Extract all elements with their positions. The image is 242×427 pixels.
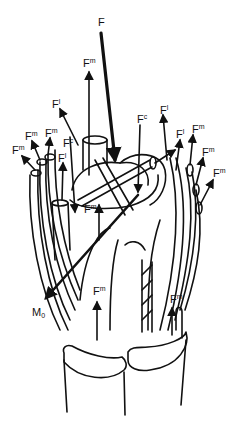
force-label-f-total: F	[98, 17, 105, 28]
label-subscript: 0	[41, 312, 45, 319]
label-superscript: l	[59, 98, 61, 105]
force-label-fl-left-mid: Fl	[58, 152, 66, 164]
force-label-fm-bottom-left: Fm	[93, 285, 106, 297]
label-base: F	[176, 128, 183, 140]
label-superscript: c	[144, 113, 148, 120]
label-superscript: m	[100, 285, 106, 292]
label-superscript: m	[90, 57, 96, 64]
label-base: F	[93, 285, 100, 297]
label-base: F	[84, 203, 91, 215]
force-label-fm-left-2: Fm	[45, 127, 58, 139]
label-superscript: m	[52, 127, 58, 134]
force-label-fm-right-2: Fm	[202, 146, 215, 158]
label-base: F	[137, 113, 144, 125]
label-base: F	[160, 104, 167, 116]
label-base: F	[58, 152, 65, 164]
force-label-fm-left-1: Fm	[25, 130, 38, 142]
label-superscript: l	[65, 152, 67, 159]
force-arrow-F	[101, 33, 115, 160]
diagram-drawing	[0, 0, 242, 427]
label-superscript: l	[183, 128, 185, 135]
label-base: F	[63, 137, 70, 149]
label-superscript: m	[91, 203, 97, 210]
label-superscript: m	[19, 144, 25, 151]
label-superscript: l	[167, 104, 169, 111]
label-base: F	[45, 127, 52, 139]
force-label-fm-left-3: Fm	[12, 144, 25, 156]
force-label-fl-right-mid: Fl	[176, 128, 184, 140]
label-base: F	[213, 167, 220, 179]
label-base: F	[83, 57, 90, 69]
label-base: F	[170, 293, 177, 305]
force-label-fm-bottom-right: Fm	[170, 293, 183, 305]
force-label-fm-right-1: Fm	[192, 123, 205, 135]
label-base: F	[52, 98, 59, 110]
force-label-fl-left-upper: Fl	[52, 98, 60, 110]
label-base: F	[98, 16, 105, 28]
label-base: F	[192, 123, 199, 135]
force-label-fc-left: Fc	[63, 137, 73, 149]
label-superscript: m	[220, 167, 226, 174]
force-label-fl-right-upper: Fl	[160, 104, 168, 116]
knee-force-diagram: FFmFlFcFlFlFmFmFmFcFmFlFmFmFmM0FmFm	[0, 0, 242, 427]
label-superscript: m	[199, 123, 205, 130]
label-base: F	[12, 144, 19, 156]
force-label-m0: M0	[32, 307, 45, 319]
label-superscript: m	[209, 146, 215, 153]
label-superscript: m	[177, 293, 183, 300]
force-label-fm-right-3: Fm	[213, 167, 226, 179]
label-base: F	[202, 146, 209, 158]
force-label-fc-right: Fc	[137, 113, 147, 125]
label-superscript: c	[70, 137, 74, 144]
label-superscript: m	[32, 130, 38, 137]
force-label-fm-top: Fm	[83, 57, 96, 69]
label-base: F	[25, 130, 32, 142]
force-label-fm-center: Fm	[84, 203, 97, 215]
label-base: M	[32, 306, 41, 318]
